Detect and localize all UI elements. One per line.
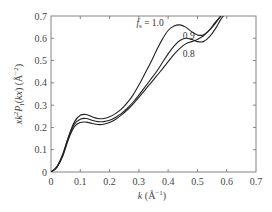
y-tick-label: 0.4 <box>35 77 48 88</box>
x-tick-label: 0.7 <box>250 176 263 187</box>
curve-fs-0-8 <box>51 8 227 172</box>
chart: 00.10.20.30.40.50.60.7 00.10.20.30.40.50… <box>0 0 272 212</box>
x-tick-label: 0.1 <box>74 176 87 187</box>
y-axis-title: xk2PI(kx) (Å−2) <box>12 64 26 125</box>
y-tick-label: 0.5 <box>35 55 48 66</box>
curve-label: 0.8 <box>183 49 195 59</box>
plot-area-border <box>51 16 256 172</box>
x-tick-labels: 00.10.20.30.40.50.60.7 <box>49 176 263 187</box>
y-tick-label: 0.1 <box>35 144 48 155</box>
y-tick-labels: 00.10.20.30.40.50.60.7 <box>35 11 48 178</box>
x-axis-title: k (Å−1) <box>138 189 166 202</box>
x-tick-label: 0.2 <box>103 176 116 187</box>
axis-ticks <box>51 16 256 172</box>
plot-frame <box>51 16 256 172</box>
y-tick-label: 0 <box>42 167 47 178</box>
x-tick-label: 0.3 <box>133 176 146 187</box>
x-tick-label: 0.5 <box>191 176 204 187</box>
curve-label: 0.9 <box>183 31 195 41</box>
curve-labels: fs = 1.00.90.8 <box>136 18 195 59</box>
curve-label: fs = 1.0 <box>136 18 164 30</box>
y-tick-label: 0.2 <box>35 122 48 133</box>
y-tick-label: 0.6 <box>35 33 48 44</box>
x-tick-label: 0 <box>49 176 54 187</box>
curves <box>51 8 227 172</box>
curve-fs-1-0 <box>51 9 227 172</box>
y-tick-label: 0.7 <box>35 11 48 22</box>
x-tick-label: 0.6 <box>220 176 233 187</box>
x-tick-label: 0.4 <box>162 176 175 187</box>
y-tick-label: 0.3 <box>35 100 48 111</box>
